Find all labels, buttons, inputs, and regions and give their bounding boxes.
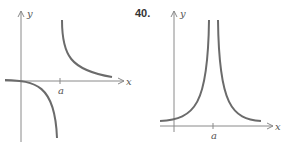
figure-1 xyxy=(5,11,124,142)
fig2-y-label: y xyxy=(180,9,186,19)
fig1-y-label: y xyxy=(27,9,33,19)
fig1-x-label: x xyxy=(126,77,132,87)
curve-right-branch xyxy=(218,20,261,121)
fig2-number: 40. xyxy=(135,8,150,19)
curve-right-branch xyxy=(62,20,112,77)
curve-left-branch xyxy=(160,20,209,121)
fig2-x-label: x xyxy=(275,122,281,132)
fig1-tick-label: a xyxy=(58,86,64,96)
fig2-tick-label: a xyxy=(211,131,217,141)
figures-canvas xyxy=(0,0,282,154)
curve-left-branch xyxy=(5,80,57,138)
figure-2 xyxy=(160,11,273,132)
